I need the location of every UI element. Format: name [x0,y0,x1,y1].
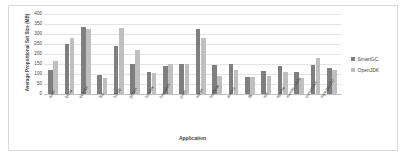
y-axis-tick-label: 0 [26,92,42,97]
x-axis-tick-slot: pmd [176,96,192,134]
bar-group [209,14,225,94]
y-axis-tick-label: 350 [26,22,42,27]
y-axis-tick-label: 100 [26,72,42,77]
y-axis-tick-labels: 050100150200250300350400 [26,14,42,94]
bar-openjdk [168,64,173,94]
bar-group [78,14,94,94]
bar-openjdk [70,38,75,94]
y-axis-tick-label: 300 [26,32,42,37]
legend-entry: OpenJDK [351,67,379,73]
bar-group [242,14,258,94]
x-axis-tick-slot: sor [258,96,274,134]
x-axis-tick-slot: antlr [45,96,61,134]
gridline [44,94,341,95]
bar-group [94,14,110,94]
legend-entry: SmartGC [351,56,379,62]
x-axis-tick-slot: sunflow [209,96,225,134]
x-axis-tick-slot: bloat [61,96,77,134]
chart-legend: SmartGCOpenJDK [351,56,379,73]
bar-group [143,14,159,94]
x-axis-tick-slot: luindex [143,96,159,134]
bar-group [176,14,192,94]
bar-openjdk [119,28,124,94]
y-axis-tick-label: 200 [26,52,42,57]
bar-group [45,14,61,94]
x-axis-tick-label: fft [248,94,254,99]
x-axis-tick-slot: sparse [274,96,290,134]
bar-group [61,14,77,94]
x-axis-tick-labels: antlrbloateclipsefoph2/dbjythonluindexlu… [44,96,341,134]
y-axis-tick-label: 50 [26,82,42,87]
x-axis-tick-slot: fft [242,96,258,134]
bar-openjdk [86,29,91,94]
legend-swatch-icon [351,57,355,61]
legend-swatch-icon [351,68,355,72]
x-axis-tick-slot: monte_carlo [291,96,307,134]
bar-group [258,14,274,94]
bar-smartgc [65,44,70,94]
chart-container: Average Proportional Set Size (MB) 05010… [8,5,398,151]
y-axis-tick-label: 250 [26,42,42,47]
bar-group [274,14,290,94]
bar-group [225,14,241,94]
bar-openjdk [201,38,206,94]
x-axis-tick-slot: eclipse [78,96,94,134]
legend-label: OpenJDK [358,67,380,73]
bar-smartgc [245,77,250,94]
x-axis-title: Application [44,135,341,141]
bar-openjdk [250,77,255,94]
x-axis-tick-slot: fop [94,96,110,134]
x-axis-tick-slot: jython [127,96,143,134]
x-axis-tick-slot: mpegaudio [324,96,340,134]
legend-label: SmartGC [358,56,379,62]
bar-openjdk [316,58,321,94]
x-axis-tick-slot: compress [307,96,323,134]
bar-openjdk [53,61,58,94]
bar-group [193,14,209,94]
x-axis-tick-slot: lusearch [160,96,176,134]
y-axis-tick-label: 150 [26,62,42,67]
bar-group [111,14,127,94]
bar-openjdk [267,76,272,94]
x-axis-tick-label: fop [99,92,106,100]
bar-group [127,14,143,94]
x-axis-tick-label: sor [263,92,270,100]
x-axis-tick-slot: avrora [225,96,241,134]
x-axis-tick-slot: xalan [193,96,209,134]
y-axis-tick-label: 400 [26,12,42,17]
x-axis-tick-slot: h2/db [111,96,127,134]
bar-smartgc [196,29,201,94]
bar-openjdk [103,78,108,94]
